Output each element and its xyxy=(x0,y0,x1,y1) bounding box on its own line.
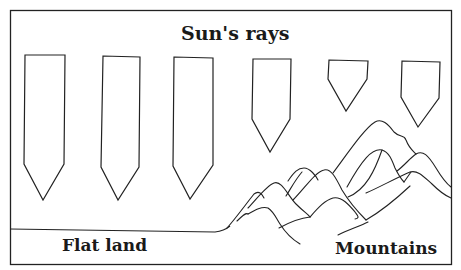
sun-rays-diagram: Sun's rays Flat land Mountains xyxy=(0,0,461,270)
sun-ray-6 xyxy=(401,61,440,127)
sun-ray-1 xyxy=(24,55,65,200)
sun-ray-2 xyxy=(101,56,140,200)
diagram-frame xyxy=(11,11,452,265)
flat-land-label: Flat land xyxy=(62,237,147,254)
diagram-title: Sun's rays xyxy=(181,24,290,43)
sun-ray-5 xyxy=(328,60,368,111)
sun-ray-3 xyxy=(173,57,213,199)
sun-ray-4 xyxy=(252,59,291,152)
mountains xyxy=(227,121,451,244)
mountains-label: Mountains xyxy=(335,240,437,257)
flat-land-line xyxy=(10,226,230,232)
